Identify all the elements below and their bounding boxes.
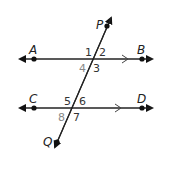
- angle-3: 3: [93, 62, 100, 75]
- angle-2: 2: [99, 46, 106, 59]
- label-c: C: [29, 92, 38, 106]
- label-d: D: [137, 92, 146, 106]
- point-p: [104, 23, 109, 28]
- diagram-canvas: A B C D P Q 1 2 3 4 5 6 7 8: [0, 0, 169, 169]
- angle-5: 5: [64, 95, 71, 108]
- label-b: B: [137, 43, 145, 57]
- point-d: [139, 105, 144, 110]
- angle-7: 7: [73, 111, 80, 124]
- angle-1: 1: [85, 46, 92, 59]
- label-q: Q: [43, 135, 52, 149]
- angle-4: 4: [79, 62, 86, 75]
- angle-6: 6: [79, 95, 86, 108]
- point-a: [31, 56, 36, 61]
- label-p: P: [96, 18, 104, 32]
- point-b: [139, 56, 144, 61]
- geometry-diagram: A B C D P Q 1 2 3 4 5 6 7 8: [0, 0, 169, 169]
- label-a: A: [28, 43, 37, 57]
- point-c: [31, 105, 36, 110]
- angle-8: 8: [58, 111, 65, 124]
- point-q: [54, 139, 59, 144]
